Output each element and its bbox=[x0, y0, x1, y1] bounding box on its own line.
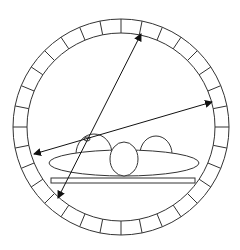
ring-divider bbox=[31, 67, 43, 75]
ring-divider bbox=[21, 86, 34, 91]
ring-divider bbox=[15, 106, 29, 109]
ring-divider bbox=[173, 205, 181, 217]
ring-divider bbox=[61, 205, 69, 217]
ring-divider bbox=[139, 21, 142, 35]
ring-diagram bbox=[0, 0, 240, 250]
ring-divider bbox=[139, 219, 142, 233]
ring-divider bbox=[213, 145, 227, 148]
ring-divider bbox=[157, 27, 162, 40]
ring-divider bbox=[208, 163, 221, 168]
ring-divider bbox=[213, 106, 227, 109]
ring-divider bbox=[187, 193, 197, 203]
segmented-ring bbox=[13, 19, 229, 235]
central-object bbox=[49, 134, 199, 183]
ring-divider bbox=[61, 37, 69, 49]
ring-divider bbox=[80, 27, 85, 40]
ring-divider bbox=[100, 21, 103, 35]
ring-divider bbox=[199, 179, 211, 187]
diagram-canvas bbox=[0, 0, 240, 250]
ring-divider bbox=[208, 86, 221, 91]
ring-divider bbox=[199, 67, 211, 75]
ring-divider bbox=[100, 219, 103, 233]
ring-divider bbox=[21, 163, 34, 168]
ring-divider bbox=[80, 214, 85, 227]
inner-circle bbox=[27, 33, 215, 221]
ring-divider bbox=[31, 179, 43, 187]
center-sphere bbox=[110, 142, 138, 176]
ring-divider bbox=[45, 51, 55, 61]
ring-divider bbox=[187, 51, 197, 61]
ring-divider bbox=[157, 214, 162, 227]
ring-divider bbox=[15, 145, 29, 148]
ring-divider bbox=[45, 193, 55, 203]
ring-divider bbox=[173, 37, 181, 49]
base-bar bbox=[51, 178, 195, 183]
ring-segment-dividers bbox=[13, 19, 229, 235]
